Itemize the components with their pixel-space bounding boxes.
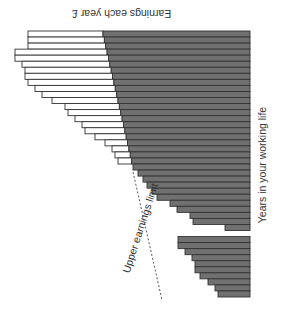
bar-below-limit bbox=[106, 43, 250, 49]
bar-above-limit bbox=[85, 128, 125, 134]
bar-above-limit bbox=[35, 85, 115, 91]
bar-above-limit bbox=[82, 122, 123, 128]
bar-above-limit bbox=[112, 146, 129, 152]
bar-above-limit bbox=[15, 55, 108, 61]
bar-below-limit bbox=[104, 37, 250, 43]
bar-below-limit bbox=[129, 146, 250, 152]
chart-title: Earnings each year £ bbox=[72, 8, 171, 20]
bar-above-limit bbox=[15, 49, 107, 55]
bar-above-limit bbox=[52, 98, 118, 104]
bar-below-limit bbox=[178, 243, 250, 249]
bar-below-limit bbox=[195, 261, 250, 267]
bar-below-limit bbox=[177, 206, 250, 212]
bar-below-limit bbox=[147, 182, 250, 188]
bar-above-limit bbox=[115, 152, 130, 158]
bar-below-limit bbox=[108, 55, 250, 61]
bar-below-limit bbox=[200, 273, 250, 279]
bar-below-limit bbox=[195, 267, 250, 273]
bar-below-limit bbox=[215, 285, 250, 291]
bar-below-limit bbox=[130, 152, 250, 158]
bar-above-limit bbox=[105, 140, 128, 146]
bar-below-limit bbox=[125, 128, 250, 134]
bar-below-limit bbox=[114, 79, 250, 85]
bar-below-limit bbox=[126, 134, 250, 140]
bar-below-limit bbox=[119, 104, 250, 110]
bar-above-limit bbox=[25, 73, 113, 79]
bar-above-limit bbox=[28, 31, 103, 37]
bar-above-limit bbox=[42, 91, 117, 97]
bar-above-limit bbox=[22, 61, 110, 67]
bar-below-limit bbox=[107, 49, 250, 55]
bar-above-limit bbox=[75, 116, 122, 122]
bar-below-limit bbox=[152, 188, 250, 194]
bar-below-limit bbox=[218, 291, 250, 297]
bar-below-limit bbox=[138, 170, 250, 176]
bar-below-limit bbox=[110, 61, 250, 67]
bar-below-limit bbox=[143, 176, 250, 182]
bar-below-limit bbox=[122, 116, 250, 122]
bar-above-limit bbox=[28, 43, 106, 49]
bar-below-limit bbox=[170, 200, 250, 206]
bar-below-limit bbox=[185, 249, 250, 255]
bar-below-limit bbox=[132, 158, 250, 164]
bar-below-limit bbox=[193, 218, 250, 224]
bar-chart-svg bbox=[0, 0, 283, 316]
bar-below-limit bbox=[118, 98, 250, 104]
bar-above-limit bbox=[118, 158, 132, 164]
earnings-chart: Earnings each year £ Years in your worki… bbox=[0, 0, 283, 316]
bar-below-limit bbox=[128, 140, 250, 146]
bar-above-limit bbox=[65, 104, 119, 110]
bar-below-limit bbox=[103, 31, 250, 37]
bar-below-limit bbox=[115, 85, 250, 91]
bar-above-limit bbox=[28, 37, 104, 43]
bar-above-limit bbox=[95, 134, 126, 140]
bar-above-limit bbox=[28, 79, 114, 85]
bar-below-limit bbox=[133, 164, 250, 170]
y-axis-label: Years in your working life bbox=[256, 107, 268, 223]
bar-below-limit bbox=[225, 224, 250, 230]
bar-below-limit bbox=[111, 67, 250, 73]
bar-below-limit bbox=[117, 91, 250, 97]
bar-above-limit bbox=[68, 110, 121, 116]
bar-below-limit bbox=[157, 194, 250, 200]
bar-below-limit bbox=[123, 122, 250, 128]
bar-below-limit bbox=[121, 110, 250, 116]
bar-below-limit bbox=[190, 212, 250, 218]
bar-below-limit bbox=[208, 279, 250, 285]
bar-below-limit bbox=[113, 73, 250, 79]
bar-below-limit bbox=[192, 255, 250, 261]
bar-above-limit bbox=[25, 67, 111, 73]
bar-below-limit bbox=[178, 237, 250, 243]
